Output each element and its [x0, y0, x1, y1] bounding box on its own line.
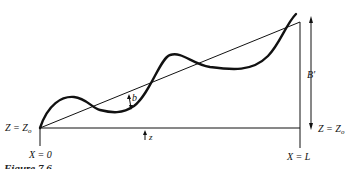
amplitude-label: b [132, 92, 137, 103]
height-arrow-up-icon [309, 16, 313, 23]
z-arrow-head-icon [143, 130, 147, 135]
x-l-label: X = L [286, 151, 311, 162]
vertical-z-label: z [148, 132, 153, 142]
mean-slope-line [40, 22, 300, 128]
wavy-profile-curve [40, 14, 296, 128]
left-datum-label: Z = Zo [5, 122, 32, 135]
amplitude-arrow-up-icon [127, 94, 131, 99]
right-datum-label: Z = Zo [318, 123, 345, 136]
height-label: B′ [307, 69, 316, 80]
height-arrow-down-icon [309, 123, 313, 130]
x-zero-label: X = 0 [28, 149, 52, 160]
figure-caption: Figure 7.6 [3, 162, 52, 169]
diagram-canvas: Z = Zo Z = Zo X = 0 X = L b B′ z Figure … [0, 0, 351, 169]
